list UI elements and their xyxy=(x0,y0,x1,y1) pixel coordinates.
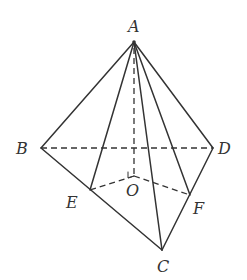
solid-edges xyxy=(41,42,213,250)
label-O: O xyxy=(126,181,139,200)
pyramid-diagram: A B C D E F O xyxy=(0,0,247,280)
edge-AB xyxy=(41,42,134,148)
label-A: A xyxy=(126,17,140,36)
edge-AF xyxy=(134,42,190,195)
edge-AE xyxy=(90,42,134,190)
edge-OF xyxy=(134,176,190,195)
label-D: D xyxy=(217,139,231,158)
edge-BC xyxy=(41,148,162,250)
label-F: F xyxy=(192,199,205,218)
vertex-A-dot xyxy=(132,40,136,44)
dashed-edges xyxy=(41,48,213,195)
label-E: E xyxy=(65,193,78,212)
edge-CD xyxy=(162,148,213,250)
label-B: B xyxy=(15,139,28,158)
label-C: C xyxy=(157,257,169,276)
